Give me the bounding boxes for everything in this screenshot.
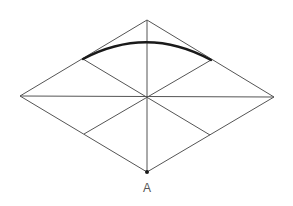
- point-a-label: A: [143, 181, 151, 195]
- isometric-rhombus-diagram: A: [0, 0, 293, 206]
- point-a-marker: [145, 170, 149, 174]
